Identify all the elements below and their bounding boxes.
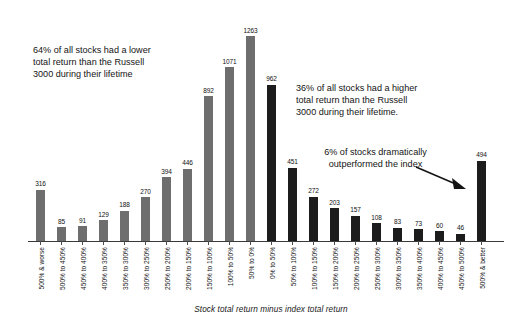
x-axis-category-text: 350% to 300% [122,247,129,290]
bar-slot: 157 [345,14,366,241]
bar-value-label: 446 [182,159,193,167]
x-axis-category-text: 100% to 50% [227,247,234,286]
x-axis-tick [345,241,366,245]
x-axis-tick [303,241,324,245]
bar-value-label: 91 [79,217,86,225]
x-axis-tick [156,241,177,245]
bar-value-label: 203 [329,199,340,207]
bar-slot: 1263 [240,14,261,241]
x-axis-category-label: 150% to 100% [198,247,219,299]
bar-value-label: 316 [35,180,46,188]
bar-slot: 203 [324,14,345,241]
x-axis-category-text: 150% to 100% [206,247,213,290]
x-axis-category-label: 100% to 150% [303,247,324,299]
bar-value-label: 272 [308,187,319,195]
bar [36,190,45,241]
x-axis-tick [282,241,303,245]
bar-value-label: 962 [266,75,277,83]
x-axis-category-label: 250% to 200% [156,247,177,299]
bar [57,227,66,241]
x-axis-category-text: 500% & better [479,247,486,289]
bar-value-label: 73 [415,220,422,228]
x-axis-tick [408,241,429,245]
x-axis-category-label: 250% to 300% [366,247,387,299]
x-axis-category-label: 300% to 350% [387,247,408,299]
x-axis-category-text: 300% to 250% [143,247,150,290]
x-axis-category-text: 500% & worse [38,247,45,290]
bar [141,197,150,241]
bar [477,161,486,241]
x-axis-category-label: 200% to 250% [345,247,366,299]
bar [330,208,339,241]
x-axis-category-text: 200% to 150% [185,247,192,290]
x-axis-category-text: 450% to 400% [80,247,87,290]
x-axis-tick [30,241,51,245]
bar-slot: 60 [429,14,450,241]
bar [309,197,318,241]
bar-slot: 451 [282,14,303,241]
x-axis-category-text: 200% to 250% [353,247,360,290]
x-axis-category-label: 150% to 200% [324,247,345,299]
x-axis-tick [72,241,93,245]
bar-value-label: 108 [371,214,382,222]
bar-value-label: 1263 [243,27,257,35]
x-axis-category-text: 250% to 200% [164,247,171,290]
x-axis-category-label: 500% & worse [30,247,51,299]
x-axis-category-text: 300% to 350% [395,247,402,290]
bar-slot: 73 [408,14,429,241]
bar-value-label: 129 [98,211,109,219]
x-axis-title: Stock total return minus index total ret… [0,305,506,314]
bar [435,231,444,241]
bar-value-label: 394 [161,168,172,176]
bar [351,216,360,241]
bar [99,220,108,241]
x-axis-category-label: 200% to 150% [177,247,198,299]
x-axis-category-label: 500% to 450% [51,247,72,299]
bar-chart: 3168591129188270394446892107112639624512… [0,0,506,326]
x-axis-category-label: 0% to 50% [261,247,282,299]
x-axis-title-text: Stock total return minus index total ret… [194,305,348,314]
bar-slot: 46 [450,14,471,241]
bar-value-label: 60 [436,222,443,230]
x-axis-category-text: 0% to 50% [269,247,276,279]
x-axis-category-text: 400% to 450% [437,247,444,290]
x-axis-category-label: 50% to 100% [282,247,303,299]
x-axis-category-label: 400% to 350% [93,247,114,299]
x-axis-tick [387,241,408,245]
x-axis-category-text: 100% to 150% [311,247,318,290]
x-axis-tick [429,241,450,245]
bar-value-label: 892 [203,87,214,95]
annotation-right: 36% of all stocks had a higher total ret… [296,82,496,119]
x-axis-category-text: 250% to 300% [374,247,381,290]
x-axis-category-label: 500% & better [471,247,492,299]
x-axis-category-label: 450% to 400% [72,247,93,299]
bar-slot: 272 [303,14,324,241]
bar-value-label: 157 [350,206,361,214]
bar [267,85,276,241]
bar [456,234,465,241]
x-axis-category-label: 350% to 400% [408,247,429,299]
bar-value-label: 270 [140,188,151,196]
x-axis-tick [324,241,345,245]
x-axis-tick [93,241,114,245]
bar [78,226,87,241]
x-axis-tick [198,241,219,245]
bar [225,67,234,241]
x-axis-category-label: 450% to 500% [450,247,471,299]
bar-slot: 83 [387,14,408,241]
x-axis-tick [135,241,156,245]
x-axis-category-text: 500% to 450% [59,247,66,290]
x-axis-tick [471,241,492,245]
bar [372,223,381,241]
x-axis-tick [366,241,387,245]
x-axis-category-label: 50% to 0% [240,247,261,299]
x-axis-category-text: 150% to 200% [332,247,339,290]
bar-slot: 962 [261,14,282,241]
bar [204,96,213,241]
x-axis-ticks [30,241,502,245]
bar-value-label: 46 [457,224,464,232]
x-axis-tick [450,241,471,245]
annotation-left: 64% of all stocks had a lower total retu… [33,44,223,81]
x-axis-category-label: 300% to 250% [135,247,156,299]
arrow-icon [414,164,470,198]
